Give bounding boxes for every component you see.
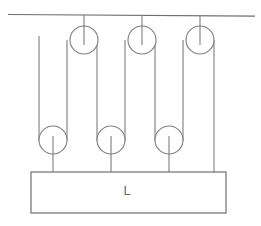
pulley-diagram-canvas: L (0, 0, 261, 226)
pulley-system-diagram: L (0, 0, 261, 226)
ceiling-support-line (8, 15, 255, 17)
load-block-label: L (123, 183, 130, 198)
